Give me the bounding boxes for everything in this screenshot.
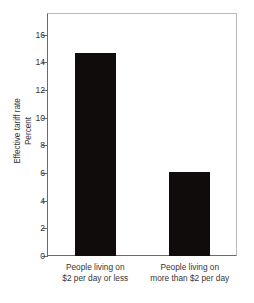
y-tick-label: 8 xyxy=(40,140,45,150)
x-category-label-line: People living on xyxy=(143,262,238,273)
bar-2 xyxy=(169,172,210,256)
y-tick-label: 0 xyxy=(40,251,45,261)
x-category-label-2: People living onmore than $2 per day xyxy=(143,262,238,284)
y-tick-label: 6 xyxy=(40,168,45,178)
x-category-label-line: People living on xyxy=(48,262,143,273)
y-tick-label: 14 xyxy=(35,57,45,67)
y-tick-label: 4 xyxy=(40,196,45,206)
x-axis-category-labels: People living on$2 per day or lessPeople… xyxy=(48,262,237,302)
y-tick-label: 16 xyxy=(35,30,45,40)
y-axis-title: Effective tariff rate Percent xyxy=(9,0,37,262)
bar-chart-figure: Effective tariff rate Percent 0246810121… xyxy=(0,0,254,303)
x-category-label-line: more than $2 per day xyxy=(143,273,238,284)
x-category-label-1: People living on$2 per day or less xyxy=(48,262,143,284)
y-tick-label: 10 xyxy=(35,113,45,123)
x-category-label-line: $2 per day or less xyxy=(48,273,143,284)
y-axis-title-line-2: Percent xyxy=(23,98,34,164)
plot-area: 0246810121416 xyxy=(48,14,237,256)
y-tick-label: 2 xyxy=(40,223,45,233)
y-tick-label: 12 xyxy=(35,85,45,95)
bar-1 xyxy=(75,53,116,256)
y-axis-title-line-1: Effective tariff rate xyxy=(12,98,23,164)
